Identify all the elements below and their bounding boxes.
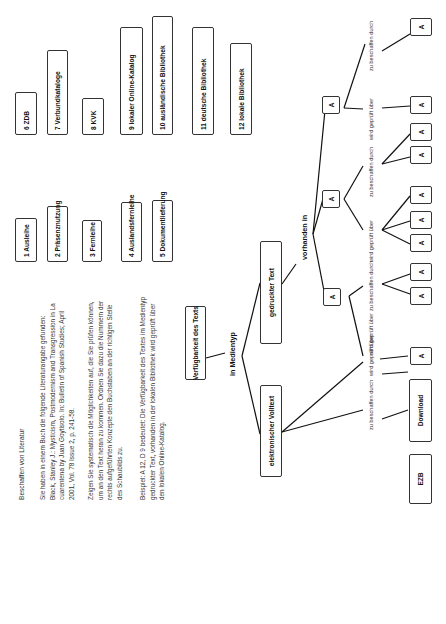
rotated-page: Beschaffen von Literatur Sie haben in ei… [0,0,446,624]
slot-a-leaf[interactable]: A [410,186,432,204]
slot-a-leaf[interactable]: A [410,347,432,365]
slot-a-leaf[interactable]: A [410,211,432,229]
edge-label-medientyp: in Medientyp [228,332,237,376]
slot-a-leaf[interactable]: A [410,18,432,36]
slot-a-leaf[interactable]: A [410,96,432,114]
edge-checked: wird geprüft über [368,220,374,262]
edge-obtain: zu beschaffen durch [368,261,374,311]
slot-a-foreign[interactable]: A [322,96,340,114]
node-electronic-fulltext: elektronischer Volltext [260,385,282,477]
tree-connectors [0,0,446,624]
node-printed-text: gedruckter Text [260,241,282,344]
edge-obtain: zu beschaffen durch [368,21,374,71]
root-node: Verfügbarkeit des Texts [185,306,206,380]
edge-obtain: zu beschaffen durch [368,147,374,197]
slot-a-leaf[interactable]: A [410,263,432,281]
edge-checked: wird geprüft über [368,313,374,355]
edge-checked: wird geprüft über [368,98,374,140]
slot-a-leaf[interactable]: A [410,146,432,164]
edge-label-vorhanden: vorhanden in [300,215,309,260]
node-download: Download [409,379,432,442]
slot-a-german[interactable]: A [322,190,340,208]
slot-a-leaf[interactable]: A [410,234,432,252]
edge-obtain: zu beschaffen durch [368,380,374,430]
slot-a-leaf[interactable]: A [410,287,432,305]
node-ezb: EZB [409,454,432,504]
slot-a-leaf[interactable]: A [410,123,432,141]
slot-a-local[interactable]: A [323,288,341,306]
